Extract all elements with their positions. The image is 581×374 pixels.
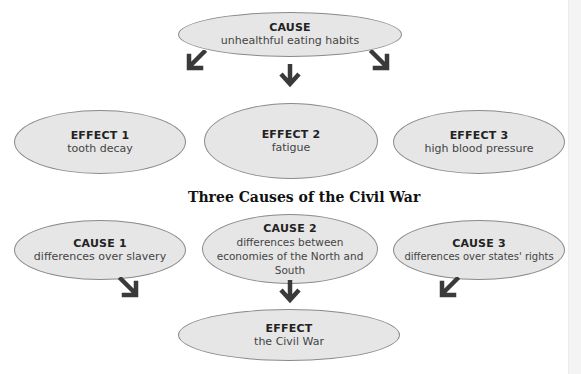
effect-oval: EFFECT the Civil War (178, 309, 400, 361)
effect-oval-1: EFFECT 1 tooth decay (14, 110, 186, 174)
effect-oval-2: EFFECT 2 fatigue (204, 103, 378, 179)
effect-oval-3: EFFECT 3 high blood pressure (393, 110, 565, 174)
effect-3-label: EFFECT 3 (450, 129, 509, 142)
arrow-down-right-icon (117, 277, 141, 301)
effect-1-text: tooth decay (67, 142, 133, 156)
effect-3-text: high blood pressure (425, 142, 534, 156)
effect-label: EFFECT (266, 322, 313, 335)
effect-1-label: EFFECT 1 (71, 129, 130, 142)
cause-3-text: differences over states' rights (404, 250, 553, 264)
arrow-down-right-icon (368, 50, 392, 74)
effect-text: the Civil War (254, 335, 324, 349)
cause-2-label: CAUSE 2 (263, 222, 317, 235)
arrow-down-left-icon (437, 277, 461, 301)
cause-oval-2: CAUSE 2 differences between economies of… (202, 214, 378, 284)
cause-label: CAUSE (269, 21, 311, 34)
cause-text: unhealthful eating habits (221, 34, 359, 48)
cause-1-label: CAUSE 1 (73, 237, 127, 250)
cause-2-text: differences between economies of the Nor… (215, 235, 365, 277)
cause-oval-3: CAUSE 3 differences over states' rights (393, 220, 565, 280)
arrow-down-icon (278, 280, 302, 304)
arrow-down-icon (278, 64, 302, 88)
effect-2-text: fatigue (272, 141, 311, 155)
effect-2-label: EFFECT 2 (262, 128, 321, 141)
cause-1-text: differences over slavery (34, 250, 166, 264)
diagram-title: Three Causes of the Civil War (188, 189, 420, 205)
page-edge (568, 0, 581, 374)
arrow-down-left-icon (184, 50, 208, 74)
cause-oval-1: CAUSE 1 differences over slavery (14, 220, 186, 280)
cause-3-label: CAUSE 3 (452, 237, 506, 250)
